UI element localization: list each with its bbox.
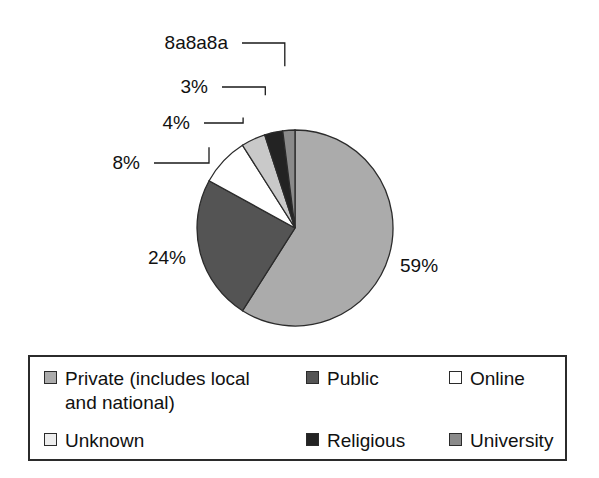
legend-swatch-religious bbox=[306, 433, 319, 446]
legend-label-public: Public bbox=[327, 367, 379, 391]
pie-label-public: 24% bbox=[148, 247, 186, 268]
pie-label-online: 8% bbox=[113, 152, 141, 173]
legend-item-online[interactable]: Online bbox=[449, 367, 553, 415]
legend-swatch-public bbox=[306, 371, 319, 384]
legend-item-university[interactable]: University bbox=[449, 429, 553, 453]
legend-label-religious: Religious bbox=[327, 429, 405, 453]
leader-line bbox=[154, 147, 209, 163]
legend-swatch-online bbox=[449, 371, 462, 384]
legend-label-unknown: Unknown bbox=[65, 429, 144, 453]
legend-item-private[interactable]: Private (includes local and national) bbox=[44, 367, 306, 415]
pie-label-religious: 3% bbox=[181, 76, 209, 97]
legend-swatch-private bbox=[44, 371, 57, 384]
legend-label-online: Online bbox=[470, 367, 525, 391]
pie-label-private: 59% bbox=[400, 255, 438, 276]
legend-swatch-university bbox=[449, 433, 462, 446]
legend: Private (includes local and national) Pu… bbox=[28, 355, 567, 461]
leader-line bbox=[242, 43, 285, 66]
legend-item-religious[interactable]: Religious bbox=[306, 429, 449, 453]
legend-label-university: University bbox=[470, 429, 553, 453]
leader-line bbox=[222, 87, 265, 95]
pie-label-university: 8a8a8a bbox=[165, 32, 229, 53]
pie-slices bbox=[197, 130, 393, 326]
leader-line bbox=[204, 118, 243, 123]
legend-swatch-unknown bbox=[44, 433, 57, 446]
legend-item-public[interactable]: Public bbox=[306, 367, 449, 415]
legend-item-unknown[interactable]: Unknown bbox=[44, 429, 306, 453]
pie-label-unknown: 4% bbox=[163, 112, 191, 133]
legend-label-private: Private (includes local and national) bbox=[65, 367, 250, 415]
legend-grid: Private (includes local and national) Pu… bbox=[30, 357, 565, 459]
